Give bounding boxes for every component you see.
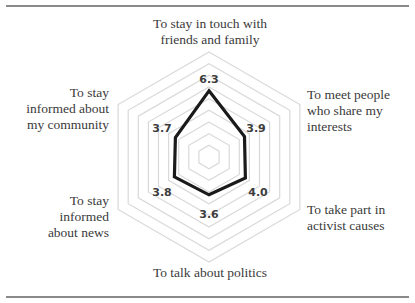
axis-label-politics: To talk about politics xyxy=(100,265,320,281)
grid-ring xyxy=(179,122,240,192)
grid-ring xyxy=(148,87,269,227)
label-line: To talk about politics xyxy=(100,265,320,281)
grid-ring xyxy=(189,134,229,181)
label-line: informed xyxy=(0,209,109,225)
label-line: activist causes xyxy=(307,218,415,234)
label-line: my community xyxy=(0,117,109,133)
label-line: friends and family xyxy=(110,32,310,48)
grid-ring xyxy=(199,145,219,168)
label-line: To meet people xyxy=(307,87,415,103)
label-line: To take part in xyxy=(307,202,415,218)
value-label-community: 3.7 xyxy=(147,122,177,135)
value-label-friends-family: 6.3 xyxy=(194,73,224,86)
value-label-news: 3.8 xyxy=(147,186,177,199)
axis-label-news: To stay informed about news xyxy=(0,193,109,241)
label-line: who share my xyxy=(307,103,415,119)
axis-label-community: To stay informed about my community xyxy=(0,85,109,133)
label-line: informed about xyxy=(0,101,109,117)
value-label-politics: 3.6 xyxy=(194,208,224,221)
label-line: To stay xyxy=(0,193,109,209)
label-line: about news xyxy=(0,225,109,241)
axis-label-activist-causes: To take part in activist causes xyxy=(307,202,415,234)
value-label-activist-causes: 4.0 xyxy=(243,186,273,199)
axis-label-meet-people: To meet people who share my interests xyxy=(307,87,415,135)
value-label-meet-people: 3.9 xyxy=(241,122,271,135)
label-line: interests xyxy=(307,119,415,135)
grid-ring xyxy=(169,110,250,203)
label-line: To stay xyxy=(0,85,109,101)
label-line: To stay in touch with xyxy=(110,16,310,32)
axis-label-friends-family: To stay in touch with friends and family xyxy=(110,16,310,48)
